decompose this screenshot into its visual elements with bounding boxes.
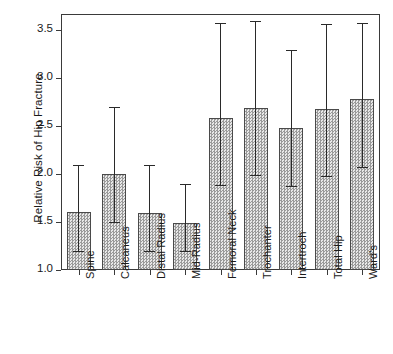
x-tick-label: Femoral Neck xyxy=(226,209,238,279)
error-bar-line xyxy=(326,24,327,176)
error-bar-cap-lower xyxy=(321,176,332,177)
bars-layer xyxy=(61,14,380,270)
error-bar-cap-lower xyxy=(180,251,191,252)
y-tick-label: 3.0 xyxy=(37,70,53,82)
x-tick-label: Trochanter xyxy=(261,225,273,279)
error-bar-line xyxy=(255,21,256,175)
y-tick-label: 1.0 xyxy=(37,262,53,274)
y-tick-label: 3.5 xyxy=(37,22,53,34)
error-bar-cap-upper xyxy=(357,23,368,24)
x-tick-mark xyxy=(79,270,80,275)
x-tick-mark xyxy=(291,270,292,275)
error-bar-cap-upper xyxy=(144,165,155,166)
error-bar-cap-lower xyxy=(250,175,261,176)
y-tick-label: 1.5 xyxy=(37,214,53,226)
x-tick-label: Spine xyxy=(84,250,96,279)
x-tick-mark xyxy=(185,270,186,275)
error-bar-cap-upper xyxy=(109,107,120,108)
x-tick-label: Total Hip xyxy=(332,235,344,279)
x-tick-mark xyxy=(362,270,363,275)
x-tick-label: Distal Radius xyxy=(155,213,167,279)
error-bar-cap-upper xyxy=(250,21,261,22)
error-bar-line xyxy=(362,23,363,168)
error-bar-cap-lower xyxy=(286,186,297,187)
error-bar-cap-lower xyxy=(73,251,84,252)
error-bar-line xyxy=(149,165,150,251)
bar-group xyxy=(67,14,91,270)
error-bar-cap-lower xyxy=(144,251,155,252)
x-tick-label: Calcaneus xyxy=(119,226,131,279)
error-bar-cap-upper xyxy=(321,24,332,25)
error-bar-line xyxy=(114,107,115,222)
error-bar-cap-lower xyxy=(109,222,120,223)
error-bar-line xyxy=(78,165,79,251)
error-bar-cap-upper xyxy=(180,184,191,185)
x-tick-label: Intertroch xyxy=(296,232,308,279)
y-tick-label: 2.5 xyxy=(37,118,53,130)
x-tick-mark xyxy=(327,270,328,275)
y-tick-label: 2.0 xyxy=(37,166,53,178)
x-tick-label: Ward's xyxy=(367,245,379,279)
error-bar-cap-lower xyxy=(357,167,368,168)
x-tick-mark xyxy=(114,270,115,275)
x-tick-mark xyxy=(256,270,257,275)
error-bar-line xyxy=(185,184,186,251)
error-bar-line xyxy=(220,23,221,185)
error-bar-cap-upper xyxy=(73,165,84,166)
bar-group xyxy=(315,14,339,270)
x-tick-mark xyxy=(150,270,151,275)
bar-chart-figure: Relative Risk of Hip Fracture 1.01.52.02… xyxy=(0,0,393,354)
bar-group xyxy=(350,14,374,270)
x-tick-mark xyxy=(221,270,222,275)
error-bar-line xyxy=(291,50,292,185)
x-tick-label: Mid-Radius xyxy=(190,222,202,279)
error-bar-cap-lower xyxy=(215,185,226,186)
error-bar-cap-upper xyxy=(215,23,226,24)
error-bar-cap-upper xyxy=(286,50,297,51)
